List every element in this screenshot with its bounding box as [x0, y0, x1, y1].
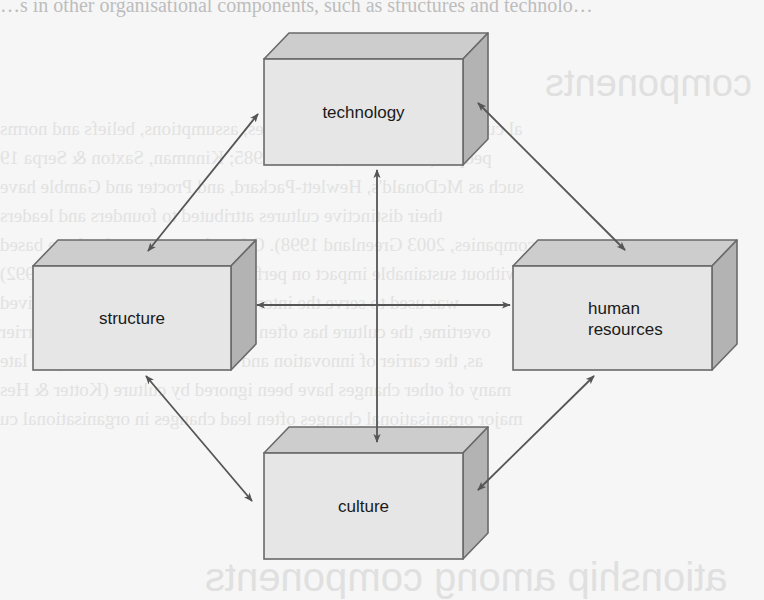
box-label: human — [588, 299, 640, 318]
box-label: technology — [322, 103, 405, 122]
box-front-face — [513, 266, 712, 370]
box-label: resources — [588, 320, 663, 339]
arrow-structure-culture — [146, 376, 252, 501]
arrow-technology-structure — [148, 114, 258, 251]
box-technology: technology — [264, 33, 488, 165]
arrow-human-resources-culture — [478, 376, 594, 490]
box-top-face — [264, 33, 488, 59]
box-label: structure — [99, 309, 165, 328]
box-label: culture — [338, 497, 389, 516]
arrow-technology-human-resources — [478, 103, 625, 250]
boxes-layer: technologystructurehumanresourcesculture — [33, 33, 737, 559]
box-human-resources: humanresources — [513, 240, 737, 370]
box-culture: culture — [264, 427, 488, 559]
box-structure: structure — [33, 240, 256, 370]
box-top-face — [33, 240, 256, 266]
box-top-face — [513, 240, 737, 266]
box-top-face — [264, 427, 488, 453]
